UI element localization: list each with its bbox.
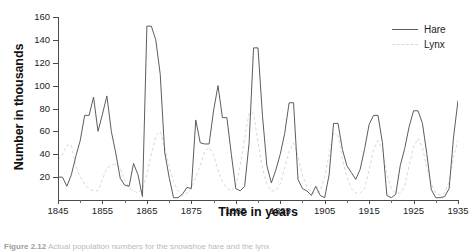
y-tick-mark <box>53 86 58 87</box>
x-tick-mark <box>325 200 326 204</box>
hare-lynx-population-figure: Number in thousands 16014012010080604020… <box>0 0 473 252</box>
hare-series-line <box>58 26 458 198</box>
x-tick-mark <box>458 200 459 204</box>
legend-label-lynx: Lynx <box>424 37 445 52</box>
y-tick-mark <box>53 177 58 178</box>
x-tick-mark <box>236 200 237 204</box>
x-tick-mark-minor <box>214 200 215 203</box>
x-tick-mark-minor <box>391 200 392 203</box>
figure-caption: Figure 2.12 Actual population numbers fo… <box>4 242 464 251</box>
x-tick-mark <box>58 200 59 204</box>
figure-number: Figure 2.12 <box>4 242 46 251</box>
x-tick-mark-minor <box>436 200 437 203</box>
x-axis-title: Time in years <box>58 205 458 219</box>
y-tick-label: 120 <box>34 58 50 68</box>
y-tick-label: 140 <box>34 35 50 45</box>
y-tick-mark <box>53 17 58 18</box>
y-tick-label: 100 <box>34 81 50 91</box>
y-tick-mark <box>53 154 58 155</box>
x-tick-mark-minor <box>125 200 126 203</box>
x-tick-mark <box>369 200 370 204</box>
x-tick-mark <box>414 200 415 204</box>
legend-label-hare: Hare <box>424 22 446 37</box>
y-tick-label: 40 <box>39 149 50 159</box>
y-tick-label: 20 <box>39 172 50 182</box>
dashed-line-swatch <box>392 44 418 45</box>
y-tick-mark <box>53 131 58 132</box>
x-tick-mark-minor <box>80 200 81 203</box>
y-axis-line <box>58 17 59 200</box>
x-tick-mark-minor <box>258 200 259 203</box>
figure-caption-text: Actual population numbers for the snowsh… <box>48 242 269 251</box>
x-tick-mark <box>191 200 192 204</box>
y-tick-mark <box>53 63 58 64</box>
x-tick-mark <box>147 200 148 204</box>
x-tick-mark-minor <box>302 200 303 203</box>
x-tick-mark-minor <box>347 200 348 203</box>
x-tick-mark <box>280 200 281 204</box>
y-tick-label: 80 <box>39 104 50 114</box>
y-tick-mark <box>53 109 58 110</box>
y-tick-label: 160 <box>34 12 50 22</box>
x-tick-mark-minor <box>169 200 170 203</box>
solid-line-swatch <box>392 29 418 30</box>
y-tick-label: 60 <box>39 126 50 136</box>
y-axis-title: Number in thousands <box>12 12 26 202</box>
y-tick-mark <box>53 40 58 41</box>
x-tick-mark <box>102 200 103 204</box>
